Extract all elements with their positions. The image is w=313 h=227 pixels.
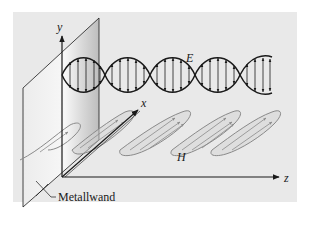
- z-axis-label: z: [283, 171, 289, 185]
- x-axis-label: x: [140, 96, 147, 110]
- e-field-label: E: [185, 51, 194, 65]
- wall-label: Metallwand: [58, 190, 115, 204]
- em-wave-diagram: y x z E H Metallwand: [0, 0, 313, 227]
- y-axis-label: y: [56, 20, 63, 34]
- h-field-label: H: [176, 150, 187, 164]
